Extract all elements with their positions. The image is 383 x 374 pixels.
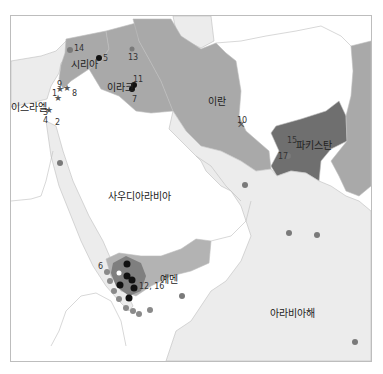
red-sea-dot bbox=[57, 160, 63, 166]
sea-dot-3 bbox=[179, 293, 185, 299]
marker-15-label: 15 bbox=[287, 136, 297, 145]
marker-6-label: 6 bbox=[98, 262, 103, 271]
marker-1-label: 1 bbox=[52, 89, 57, 98]
yemen-dot-white bbox=[117, 271, 122, 276]
yemen-dot-gray-3 bbox=[111, 288, 117, 294]
marker-14-dot bbox=[67, 47, 73, 53]
yemen-dot-black-3 bbox=[129, 277, 136, 284]
yemen-dot-gray-6 bbox=[130, 308, 136, 314]
sea-dot-1 bbox=[286, 230, 292, 236]
marker-5-label: 5 bbox=[103, 54, 108, 63]
marker-8-star: ★ bbox=[63, 83, 71, 93]
yemen-dot-black-6 bbox=[126, 295, 133, 302]
yemen-dot-black-5 bbox=[131, 285, 138, 292]
label-saudi-arabia: 사우디아라비아 bbox=[108, 188, 171, 203]
label-israel: 이스라엘 bbox=[11, 99, 47, 114]
marker-12-16-label: 12, 16 bbox=[139, 282, 164, 291]
marker-10-label: 10 bbox=[237, 116, 247, 125]
label-pakistan: 파키스탄 bbox=[296, 137, 332, 152]
marker-9-label: 9 bbox=[57, 80, 62, 89]
yemen-dot-gray-1 bbox=[104, 269, 110, 275]
marker-2-label: 2 bbox=[55, 118, 60, 127]
africa-border bbox=[11, 151, 53, 201]
marker-17-label: 17 bbox=[278, 152, 288, 161]
yemen-dot-gray-2 bbox=[107, 278, 113, 284]
label-iran: 이란 bbox=[208, 93, 226, 108]
marker-4-label: 4 bbox=[43, 116, 48, 125]
yemen-dot-black-4 bbox=[117, 282, 124, 289]
yemen-dot-gray-8 bbox=[147, 307, 153, 313]
marker-13-label: 13 bbox=[128, 53, 138, 62]
marker-8-label: 8 bbox=[72, 89, 77, 98]
yemen-dot-black-1 bbox=[124, 261, 131, 268]
yemen-dot-gray-4 bbox=[116, 296, 122, 302]
marker-13-dot bbox=[130, 47, 135, 52]
map-frame: ★ ★ ★ ★ ✕ 이스라엘 시리아 이라크 이란 파키스탄 사우디아라비아 예… bbox=[10, 15, 372, 362]
marker-11-label: 11 bbox=[133, 75, 143, 84]
sea-dot-4 bbox=[352, 339, 358, 345]
label-syria: 시리아 bbox=[71, 56, 98, 71]
yemen-dot-gray-7 bbox=[136, 311, 142, 317]
marker-14-label: 14 bbox=[74, 44, 84, 53]
yemen-dot-gray-5 bbox=[123, 305, 129, 311]
map-canvas: ★ ★ ★ ★ ✕ bbox=[11, 16, 371, 361]
label-iraq: 이라크 bbox=[107, 79, 134, 94]
gulf-dot bbox=[242, 182, 248, 188]
persian-gulf bbox=[166, 111, 371, 361]
marker-7-label: 7 bbox=[132, 95, 137, 104]
africa-border-2 bbox=[51, 293, 126, 346]
afghanistan-border bbox=[216, 26, 351, 46]
label-arabian-sea: 아라비아해 bbox=[270, 305, 315, 320]
sea-dot-2 bbox=[314, 232, 320, 238]
